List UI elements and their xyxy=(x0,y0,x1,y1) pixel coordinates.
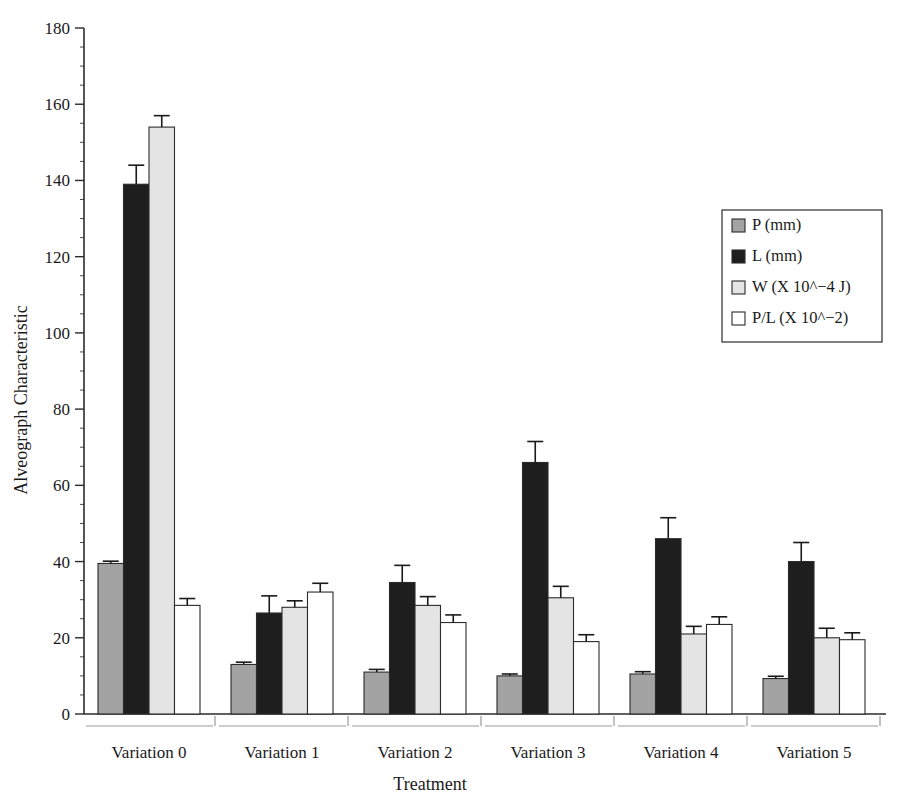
error-bar-3-3 xyxy=(578,635,594,642)
bar-3-1[interactable] xyxy=(523,462,549,714)
x-tick-label-2: Variation 2 xyxy=(377,743,452,762)
error-bar-1-3 xyxy=(312,583,328,592)
error-bar-2-2 xyxy=(420,597,436,606)
y-tick-label: 160 xyxy=(45,95,71,114)
bar-2-3[interactable] xyxy=(441,623,467,714)
error-bar-5-1 xyxy=(793,543,809,562)
y-tick-label: 20 xyxy=(53,629,70,648)
error-bar-3-2 xyxy=(553,586,569,597)
bar-2-0[interactable] xyxy=(364,672,390,714)
y-tick-label: 40 xyxy=(53,553,70,572)
bar-4-3[interactable] xyxy=(707,624,733,714)
y-axis-ticks: 020406080100120140160180 xyxy=(45,19,85,724)
bar-3-2[interactable] xyxy=(548,598,574,714)
error-bar-5-2 xyxy=(819,628,835,638)
error-bar-4-3 xyxy=(711,617,727,625)
alveograph-bar-chart-figure: 020406080100120140160180 Variation 0Vari… xyxy=(0,0,897,808)
bar-4-2[interactable] xyxy=(681,634,707,714)
bar-5-3[interactable] xyxy=(840,640,866,714)
legend-label-2: W (X 10^−4 J) xyxy=(752,277,851,296)
bar-5-2[interactable] xyxy=(814,638,840,714)
error-bar-4-2 xyxy=(686,626,702,634)
legend-label-3: P/L (X 10^−2) xyxy=(752,308,848,327)
legend-swatch-1 xyxy=(732,250,745,263)
y-tick-label: 100 xyxy=(45,324,71,343)
legend-label-1: L (mm) xyxy=(752,246,802,265)
x-tick-label-5: Variation 5 xyxy=(776,743,851,762)
bar-2-2[interactable] xyxy=(415,605,441,714)
y-tick-label: 140 xyxy=(45,171,71,190)
error-bar-2-3 xyxy=(445,615,461,623)
x-axis-group-bands xyxy=(86,716,880,726)
x-tick-label-4: Variation 4 xyxy=(643,743,719,762)
x-axis-category-labels: Variation 0Variation 1Variation 2Variati… xyxy=(111,743,851,762)
bar-3-0[interactable] xyxy=(497,676,523,714)
bar-5-0[interactable] xyxy=(763,679,789,714)
x-axis-title: Treatment xyxy=(393,774,466,794)
error-bar-0-3 xyxy=(179,599,195,606)
chart-legend[interactable]: P (mm)L (mm)W (X 10^−4 J)P/L (X 10^−2) xyxy=(722,210,882,342)
error-bar-4-1 xyxy=(660,518,676,539)
bar-1-1[interactable] xyxy=(257,613,283,714)
error-bar-1-2 xyxy=(287,601,303,607)
bar-0-2[interactable] xyxy=(149,127,175,714)
error-bar-0-1 xyxy=(128,165,144,184)
x-tick-label-3: Variation 3 xyxy=(510,743,585,762)
chart-canvas: 020406080100120140160180 Variation 0Vari… xyxy=(0,0,897,808)
legend-swatch-3 xyxy=(732,312,745,325)
error-bar-1-1 xyxy=(261,596,277,613)
bar-0-3[interactable] xyxy=(175,605,201,714)
bar-1-0[interactable] xyxy=(231,664,257,714)
error-bar-5-3 xyxy=(844,633,860,640)
bar-5-1[interactable] xyxy=(789,562,815,714)
y-tick-label: 80 xyxy=(53,400,70,419)
bar-4-0[interactable] xyxy=(630,674,656,714)
legend-label-0: P (mm) xyxy=(752,215,801,234)
legend-swatch-2 xyxy=(732,281,745,294)
legend-swatch-0 xyxy=(732,219,745,232)
x-tick-label-0: Variation 0 xyxy=(111,743,186,762)
y-axis-title: Alveograph Characteristic xyxy=(11,305,31,494)
error-bar-3-1 xyxy=(527,442,543,463)
y-tick-label: 180 xyxy=(45,19,71,38)
bar-2-1[interactable] xyxy=(390,583,416,714)
y-tick-label: 0 xyxy=(62,705,71,724)
bar-0-0[interactable] xyxy=(98,563,124,714)
bar-1-3[interactable] xyxy=(308,592,334,714)
y-tick-label: 120 xyxy=(45,248,71,267)
error-bar-2-1 xyxy=(394,565,410,582)
bar-3-3[interactable] xyxy=(574,642,600,714)
error-bar-0-2 xyxy=(154,116,170,127)
bar-1-2[interactable] xyxy=(282,607,308,714)
bar-0-1[interactable] xyxy=(124,184,150,714)
y-tick-label: 60 xyxy=(53,476,70,495)
bar-4-1[interactable] xyxy=(656,539,682,714)
error-bars-layer xyxy=(103,116,861,679)
x-tick-label-1: Variation 1 xyxy=(244,743,319,762)
